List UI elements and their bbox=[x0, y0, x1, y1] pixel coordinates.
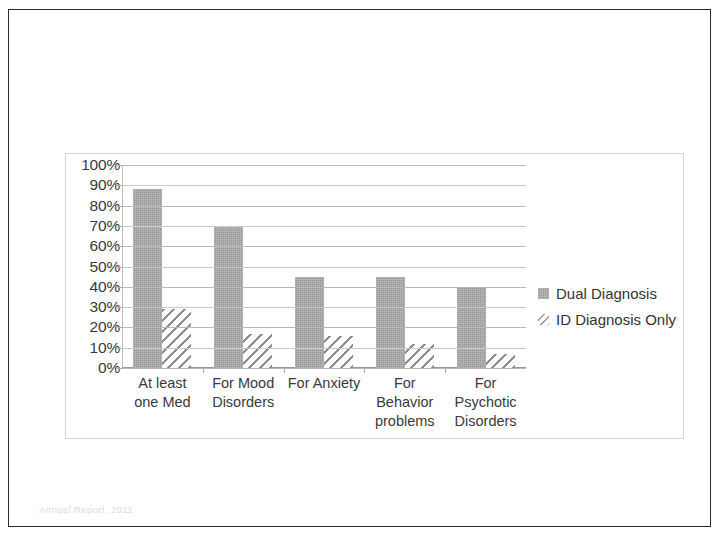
chart-plot-area: 100%90%80%70%60%50%40%30%20%10%0% At lea… bbox=[66, 154, 683, 438]
x-axis-category-label: For MoodDisorders bbox=[203, 374, 284, 412]
y-axis-tick-mark bbox=[117, 267, 122, 268]
legend-label: ID Diagnosis Only bbox=[556, 311, 676, 328]
x-axis-tick-mark bbox=[364, 368, 365, 373]
bar[interactable] bbox=[324, 336, 353, 368]
x-axis-category-line: Disorders bbox=[445, 412, 526, 431]
gridline bbox=[122, 348, 526, 349]
y-axis-tick-mark bbox=[117, 348, 122, 349]
gridline bbox=[122, 327, 526, 328]
bar[interactable] bbox=[162, 309, 191, 368]
y-axis-tick-mark bbox=[117, 185, 122, 186]
x-axis-category-line: Behavior bbox=[364, 393, 445, 412]
y-axis-tick-label: 80% bbox=[90, 197, 120, 215]
x-axis-category-line: For bbox=[445, 374, 526, 393]
legend-swatch-solid-icon bbox=[538, 288, 549, 299]
y-axis-tick-mark bbox=[117, 368, 122, 369]
y-axis-tick-mark bbox=[117, 226, 122, 227]
chart-frame: 100%90%80%70%60%50%40%30%20%10%0% At lea… bbox=[65, 153, 684, 439]
y-axis-tick-label: 70% bbox=[90, 217, 120, 235]
gridline bbox=[122, 226, 526, 227]
legend-item-dual-diagnosis[interactable]: Dual Diagnosis bbox=[538, 280, 683, 306]
bar[interactable] bbox=[214, 226, 243, 368]
plot-region bbox=[122, 165, 526, 368]
legend-label: Dual Diagnosis bbox=[556, 285, 657, 302]
bar[interactable] bbox=[243, 334, 272, 369]
y-axis-tick-mark bbox=[117, 206, 122, 207]
legend-swatch-hatch-icon bbox=[538, 314, 549, 325]
bar[interactable] bbox=[486, 354, 515, 368]
y-axis-tick-label: 60% bbox=[90, 237, 120, 255]
x-axis-category-line: problems bbox=[364, 412, 445, 431]
y-axis: 100%90%80%70%60%50%40%30%20%10%0% bbox=[68, 165, 120, 368]
slide-footer: Annual Report, 2011 bbox=[39, 504, 133, 515]
x-axis-category-line: Psychotic bbox=[445, 393, 526, 412]
y-axis-tick-label: 30% bbox=[90, 298, 120, 316]
y-axis-tick-mark bbox=[117, 287, 122, 288]
x-axis-category-label: ForPsychoticDisorders bbox=[445, 374, 526, 431]
gridline bbox=[122, 267, 526, 268]
gridline bbox=[122, 287, 526, 288]
y-axis-tick-mark bbox=[117, 165, 122, 166]
gridline bbox=[122, 206, 526, 207]
x-axis-tick-mark bbox=[445, 368, 446, 373]
gridline bbox=[122, 165, 526, 166]
gridline bbox=[122, 368, 526, 369]
x-axis-category-line: For Mood bbox=[203, 374, 284, 393]
y-axis-tick-label: 50% bbox=[90, 258, 120, 276]
legend-item-id-diagnosis-only[interactable]: ID Diagnosis Only bbox=[538, 306, 683, 332]
x-axis-labels: At leastone MedFor MoodDisordersFor Anxi… bbox=[122, 374, 526, 436]
x-axis-tick-mark bbox=[203, 368, 204, 373]
bar[interactable] bbox=[376, 277, 405, 368]
y-axis-tick-label: 90% bbox=[90, 176, 120, 194]
gridline bbox=[122, 307, 526, 308]
x-axis-category-label: At leastone Med bbox=[122, 374, 203, 412]
bar[interactable] bbox=[133, 189, 162, 368]
y-axis-tick-label: 10% bbox=[90, 339, 120, 357]
y-axis-tick-mark bbox=[117, 246, 122, 247]
y-axis-tick-mark bbox=[117, 327, 122, 328]
y-axis-tick-label: 40% bbox=[90, 278, 120, 296]
x-axis-category-line: For bbox=[364, 374, 445, 393]
y-axis-tick-label: 20% bbox=[90, 318, 120, 336]
gridline bbox=[122, 185, 526, 186]
x-axis-category-line: Disorders bbox=[203, 393, 284, 412]
gridline bbox=[122, 246, 526, 247]
chart-legend: Dual Diagnosis ID Diagnosis Only bbox=[538, 280, 683, 332]
y-axis-tick-mark bbox=[117, 307, 122, 308]
x-axis-category-line: At least bbox=[122, 374, 203, 393]
slide: 100%90%80%70%60%50%40%30%20%10%0% At lea… bbox=[8, 9, 711, 527]
x-axis-category-line: one Med bbox=[122, 393, 203, 412]
x-axis-category-label: For Anxiety bbox=[284, 374, 365, 393]
x-axis-category-label: ForBehaviorproblems bbox=[364, 374, 445, 431]
x-axis-tick-mark bbox=[284, 368, 285, 373]
bar[interactable] bbox=[295, 277, 324, 368]
x-axis-category-line: For Anxiety bbox=[284, 374, 365, 393]
y-axis-tick-label: 100% bbox=[81, 156, 120, 174]
